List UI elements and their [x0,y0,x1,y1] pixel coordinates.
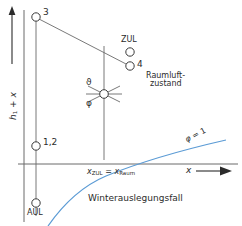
point-label-12: 1,2 [43,138,57,147]
theta-label: ϑ [86,78,92,87]
point-label-4: 4 [137,60,143,69]
x-equality-annotation: xZUL = xRaum [87,168,135,177]
process-line-3-to-4 [39,19,128,65]
x-axis-label: x [186,166,191,175]
x-equality-left-sub: ZUL [92,170,103,176]
x-axis-arrow [196,167,232,176]
room-state-line-2: zustand [146,80,185,88]
y-axis-label: h1 + x [9,92,19,120]
figure-caption: Winterauslegungsfall [88,194,183,203]
mollier-diagram: h1 + x 3 ZUL 4 1,2 AUL ϑ φ Raumluft- zus… [0,0,242,226]
saturation-curve-phi-1 [48,140,226,226]
y-axis-label-main: h [8,114,18,120]
x-equality-eq: = [105,167,112,176]
point-label-3: 3 [43,8,49,17]
y-axis-arrow [9,6,16,64]
point-label-zul: ZUL [121,36,137,44]
y-axis-label-rest: + x [8,92,18,111]
point-marker-3 [32,13,40,21]
room-state-annotation: Raumluft- zustand [146,72,185,89]
point-marker-12 [32,142,40,150]
point-marker-4 [126,62,134,70]
phi-label: φ [86,99,92,108]
y-axis-label-sub: 1 [12,111,18,115]
point-marker-zul [126,48,134,56]
x-equality-right-sub: Raum [119,170,135,176]
point-marker-aul [32,199,40,207]
point-label-aul: AUL [27,209,43,217]
